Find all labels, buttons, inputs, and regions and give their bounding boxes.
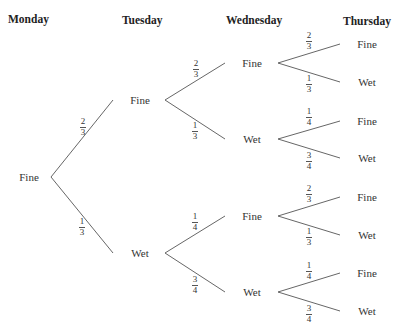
numerator: 1 [80,217,85,226]
node-monday-fine: Fine [19,171,39,183]
node-thursday-fine: Fine [357,267,377,279]
node-tuesday-fine: Fine [130,94,150,106]
numerator: 1 [193,212,198,221]
branch-mon-fine-to-tue-wet [51,177,113,253]
denominator: 3 [307,238,312,247]
denominator: 4 [307,315,312,324]
prob-mon-to-tue-fine: 23 [80,117,86,137]
node-thursday-fine: Fine [357,115,377,127]
numerator: 2 [307,184,312,193]
numerator: 1 [307,74,312,83]
node-tuesday-wet: Wet [131,247,148,259]
node-wednesday-fine: Fine [242,57,262,69]
prob-mon-to-tue-wet: 13 [79,217,85,237]
prob-wed3-to-thu-fine: 23 [306,184,312,204]
numerator: 3 [307,151,312,160]
numerator: 1 [307,107,312,116]
numerator: 3 [193,275,198,284]
denominator: 3 [307,85,312,94]
node-wednesday-fine: Fine [242,210,262,222]
denominator: 3 [307,195,312,204]
prob-wed4-to-thu-wet: 34 [306,304,312,324]
denominator: 3 [307,42,312,51]
node-thursday-fine: Fine [357,38,377,50]
denominator: 4 [193,286,198,295]
prob-wed1-to-thu-wet: 13 [306,74,312,94]
denominator: 3 [81,128,86,137]
denominator: 4 [307,162,312,171]
numerator: 1 [307,261,312,270]
numerator: 2 [307,31,312,40]
prob-wed4-to-thu-fine: 14 [306,261,312,281]
denominator: 3 [194,70,199,79]
numerator: 1 [193,121,198,130]
node-thursday-wet: Wet [358,76,375,88]
denominator: 3 [193,132,198,141]
prob-tue-wet-to-wed-wet: 34 [192,275,198,295]
numerator: 2 [81,117,86,126]
denominator: 4 [307,118,312,127]
prob-wed3-to-thu-wet: 13 [306,227,312,247]
numerator: 1 [307,227,312,236]
node-wednesday-wet: Wet [243,133,260,145]
branch-mon-fine-to-tue-fine [51,100,113,177]
prob-tue-fine-to-wed-fine: 23 [193,59,199,79]
prob-wed2-to-thu-fine: 14 [306,107,312,127]
numerator: 2 [194,59,199,68]
node-thursday-fine: Fine [357,191,377,203]
denominator: 4 [193,223,198,232]
node-wednesday-wet: Wet [243,286,260,298]
node-thursday-wet: Wet [358,229,375,241]
prob-wed2-to-thu-wet: 34 [306,151,312,171]
numerator: 3 [307,304,312,313]
tree-branches [0,0,397,334]
denominator: 3 [80,228,85,237]
prob-wed1-to-thu-fine: 23 [306,31,312,51]
prob-tue-wet-to-wed-fine: 14 [192,212,198,232]
denominator: 4 [307,272,312,281]
prob-tue-fine-to-wed-wet: 13 [192,121,198,141]
node-thursday-wet: Wet [358,305,375,317]
node-thursday-wet: Wet [358,152,375,164]
